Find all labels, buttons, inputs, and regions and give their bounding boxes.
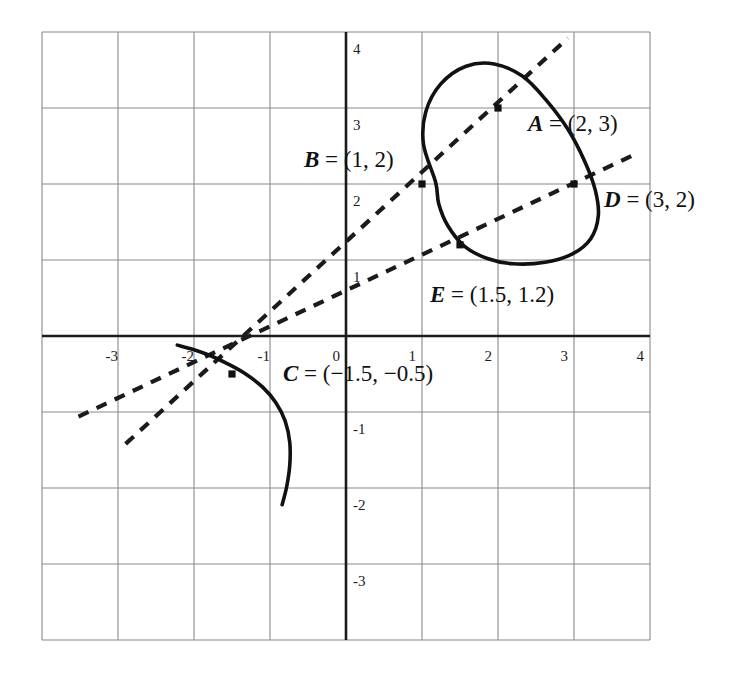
point-label-B-value: = (1, 2): [319, 147, 393, 172]
point-label-E: E = (1.5, 1.2): [430, 283, 554, 306]
y-tick-label--1: -1: [353, 422, 366, 437]
plot-point-A: [494, 104, 501, 111]
plot-point-C: [228, 370, 235, 377]
point-label-C-variable: C: [283, 361, 298, 386]
point-label-B: B = (1, 2): [304, 148, 394, 171]
point-label-B-variable: B: [304, 147, 319, 172]
point-label-A-value: = (2, 3): [543, 111, 617, 136]
x-tick-label-3: 3: [554, 349, 568, 364]
point-label-A-variable: A: [528, 111, 543, 136]
point-label-E-value: = (1.5, 1.2): [445, 282, 554, 307]
x-tick-label--1: -1: [250, 349, 270, 364]
plot-point-E: [456, 241, 463, 248]
point-label-D-variable: D: [604, 187, 621, 212]
plot-point-B: [418, 180, 425, 187]
point-label-A: A = (2, 3): [528, 112, 618, 135]
x-tick-label--2: -2: [174, 349, 194, 364]
y-tick-label-4: 4: [353, 42, 361, 57]
x-tick-label-2: 2: [478, 349, 492, 364]
point-label-C: C = (−1.5, −0.5): [283, 362, 433, 385]
x-tick-label--3: -3: [98, 349, 118, 364]
coordinate-plot-figure: -3 -2 -1 0 1 2 3 4 4 3 2 1 -1 -2 -3 A = …: [0, 0, 735, 680]
y-tick-label-2: 2: [353, 194, 361, 209]
y-tick-label-1: 1: [353, 270, 361, 285]
point-label-D: D = (3, 2): [604, 188, 695, 211]
x-tick-label-4: 4: [630, 349, 644, 364]
y-tick-label--3: -3: [353, 574, 366, 589]
y-tick-label--2: -2: [353, 498, 366, 513]
plot-point-D: [570, 180, 577, 187]
y-tick-label-3: 3: [353, 118, 361, 133]
plot-canvas: [0, 0, 735, 680]
point-label-E-variable: E: [430, 282, 445, 307]
point-label-D-value: = (3, 2): [621, 187, 695, 212]
point-label-C-value: = (−1.5, −0.5): [298, 361, 433, 386]
